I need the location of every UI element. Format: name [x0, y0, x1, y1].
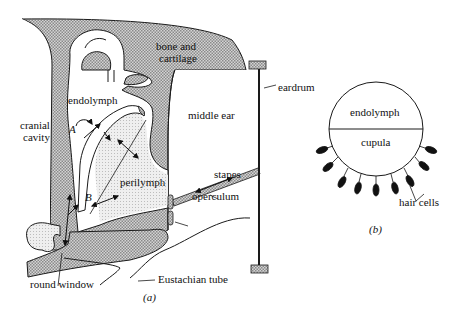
label-bone: bone and — [156, 40, 197, 52]
label-cartilage: cartilage — [159, 52, 197, 64]
label-cupula: cupula — [361, 136, 390, 148]
panel-b: endolymph cupula hair cells (b) — [315, 82, 439, 236]
label-endolymph-a: endolymph — [68, 94, 118, 106]
panel-a: bone and cartilage endolymph cranial cav… — [20, 19, 315, 304]
label-cranial: cranial — [20, 119, 50, 131]
label-eustachian-tube: Eustachian tube — [158, 273, 228, 285]
label-middle-ear: middle ear — [188, 109, 235, 121]
label-point-a: A — [68, 123, 76, 135]
label-perilymph: perilymph — [120, 176, 166, 188]
caption-b: (b) — [369, 223, 382, 236]
label-point-b: B — [85, 191, 92, 203]
eardrum — [249, 61, 268, 273]
label-eardrum: eardrum — [278, 81, 315, 93]
label-operculum: operculum — [192, 190, 239, 202]
caption-a: (a) — [143, 291, 156, 304]
label-round-window: round window — [30, 278, 94, 290]
label-stapes: stapes — [214, 168, 241, 180]
ear-diagram-figure: bone and cartilage endolymph cranial cav… — [0, 0, 457, 321]
label-endolymph-b: endolymph — [350, 106, 400, 118]
label-cavity: cavity — [23, 131, 50, 143]
label-hair-cells: hair cells — [399, 196, 439, 208]
operculum — [168, 211, 173, 225]
